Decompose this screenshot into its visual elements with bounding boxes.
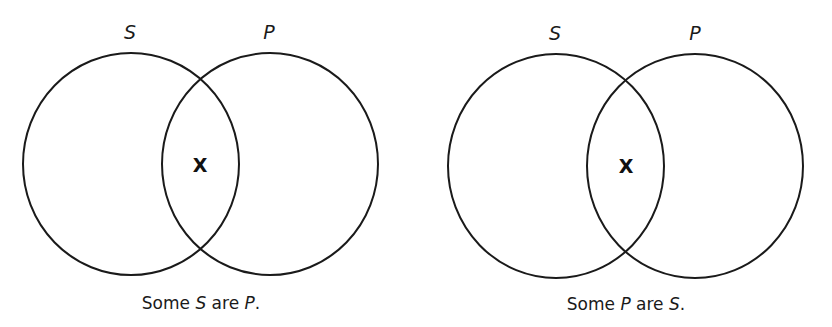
caption-term: S bbox=[669, 294, 680, 314]
label-p: P bbox=[263, 21, 275, 43]
caption-part: are bbox=[631, 294, 669, 314]
caption: Some P are S. bbox=[567, 294, 685, 314]
caption-part: . bbox=[680, 294, 685, 314]
existence-mark-x: X bbox=[193, 154, 208, 176]
caption-term: S bbox=[195, 293, 206, 313]
caption: Some S are P. bbox=[142, 293, 260, 313]
caption-part: Some bbox=[567, 294, 621, 314]
existence-mark-x: X bbox=[619, 155, 634, 177]
caption-part: are bbox=[206, 293, 244, 313]
venn-diagram-some-p-are-s: S P X Some P are S. bbox=[448, 22, 803, 314]
venn-diagram-some-s-are-p: S P X Some S are P. bbox=[23, 21, 378, 313]
label-s: S bbox=[124, 21, 136, 43]
venn-diagrams-canvas: S P X Some S are P. S P X Some P are S. bbox=[0, 0, 832, 327]
caption-part: Some bbox=[142, 293, 196, 313]
label-p: P bbox=[689, 22, 701, 44]
caption-part: . bbox=[255, 293, 260, 313]
label-s: S bbox=[549, 22, 561, 44]
